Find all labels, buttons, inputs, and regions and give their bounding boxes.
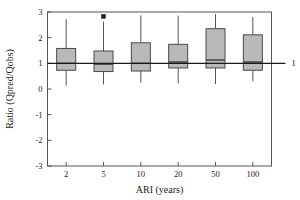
boxplot-figure: 3210-1-2-325102050100ARI (years)Ratio (Q… [0,0,300,200]
box-5 [94,51,113,72]
box-group-20 [169,16,188,84]
y-tick-label--3: -3 [35,161,42,171]
box-group-2 [57,19,76,85]
box-20 [169,44,188,68]
y-tick-label--1: -1 [35,110,42,120]
x-axis-title: ARI (years) [136,184,183,196]
box-2 [57,48,76,70]
box-group-50 [206,14,225,84]
box-group-10 [131,15,150,82]
x-tick-label-2: 2 [64,169,68,179]
x-tick-label-50: 50 [211,169,220,179]
plot-frame [48,12,272,166]
box-50 [206,29,225,68]
y-tick-label-1: 1 [38,58,42,68]
x-tick-label-20: 20 [174,169,183,179]
y-tick-label--2: -2 [35,135,42,145]
box-group-100 [243,17,262,81]
outlier-5-0 [102,14,106,18]
x-tick-label-100: 100 [246,169,259,179]
x-tick-label-5: 5 [101,169,105,179]
box-10 [131,43,150,71]
x-tick-label-10: 10 [137,169,146,179]
y-axis-title: Ratio (Qpred/Qobs) [4,49,16,129]
reference-line-label: 1 [292,58,296,68]
box-100 [243,35,262,70]
y-tick-label-2: 2 [38,33,42,43]
box-group-5 [94,14,113,84]
ratio-vs-ari-boxplot: 3210-1-2-325102050100ARI (years)Ratio (Q… [0,0,300,200]
y-tick-label-3: 3 [38,7,42,17]
y-tick-label-0: 0 [38,84,42,94]
